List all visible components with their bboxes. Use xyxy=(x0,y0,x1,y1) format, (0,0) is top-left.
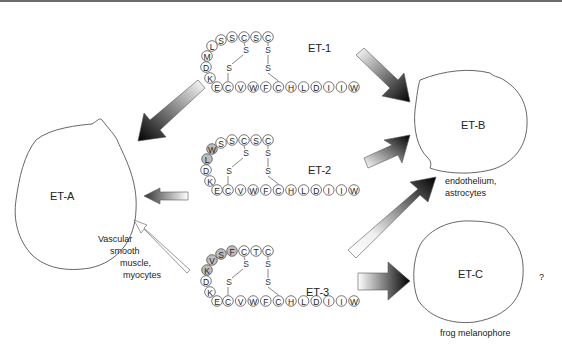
svg-text:S: S xyxy=(265,166,271,176)
arrow-et1-to-etb xyxy=(356,48,410,102)
residue: C xyxy=(263,32,274,43)
residue: W xyxy=(248,296,259,307)
disulfide-bonds: SSSS xyxy=(226,257,278,295)
peptide-et-2: EKDLWSSCSCCVWFCHLDIIWSSSS xyxy=(201,135,360,196)
svg-text:I: I xyxy=(340,83,342,93)
svg-text:W: W xyxy=(249,297,257,307)
residue: C xyxy=(223,296,234,307)
svg-text:C: C xyxy=(225,83,231,93)
residue: H xyxy=(286,185,297,196)
svg-text:C: C xyxy=(225,297,231,307)
svg-text:W: W xyxy=(249,186,257,196)
svg-text:M: M xyxy=(203,52,210,62)
svg-text:S: S xyxy=(218,36,224,46)
svg-text:T: T xyxy=(253,247,258,257)
svg-text:D: D xyxy=(313,297,319,307)
receptor-label-et-b: ET-B xyxy=(461,119,485,131)
residue: H xyxy=(286,296,297,307)
receptor-label-et-c: ET-C xyxy=(458,268,483,280)
svg-text:C: C xyxy=(241,136,247,146)
svg-text:W: W xyxy=(350,186,358,196)
svg-text:V: V xyxy=(238,297,244,307)
svg-text:W: W xyxy=(208,145,216,155)
peptide-label-et-2: ET-2 xyxy=(308,164,331,176)
residue: I xyxy=(336,185,347,196)
residue: E xyxy=(212,296,223,307)
residue: S xyxy=(216,138,227,149)
svg-text:K: K xyxy=(207,288,213,298)
svg-text:K: K xyxy=(204,266,210,276)
peptide-label-et-1: ET-1 xyxy=(308,42,331,54)
svg-text:V: V xyxy=(238,186,244,196)
tissue-label-line: Vascular xyxy=(98,234,132,244)
svg-text:L: L xyxy=(301,297,306,307)
svg-text:H: H xyxy=(288,186,294,196)
residue: S xyxy=(227,32,238,43)
svg-text:S: S xyxy=(243,259,249,269)
residue: K xyxy=(205,73,216,84)
residue: D xyxy=(311,82,322,93)
svg-text:C: C xyxy=(275,83,281,93)
tissue-label-line: muscle, xyxy=(120,258,151,268)
residue: F xyxy=(261,82,272,93)
residue: W xyxy=(349,82,360,93)
disulfide-bonds: SSSS xyxy=(226,146,278,184)
residue: C xyxy=(273,82,284,93)
residue: D xyxy=(201,62,212,73)
residue: S xyxy=(251,135,262,146)
residue: H xyxy=(286,82,297,93)
tissue-label-line: frog melanophore xyxy=(440,328,511,338)
svg-text:I: I xyxy=(328,186,330,196)
svg-text:L: L xyxy=(210,42,215,52)
svg-text:S: S xyxy=(243,45,249,55)
residue: C xyxy=(223,82,234,93)
svg-text:V: V xyxy=(209,256,215,266)
svg-text:S: S xyxy=(229,136,235,146)
svg-text:S: S xyxy=(218,250,224,260)
residue: I xyxy=(324,185,335,196)
arrow-et3-to-etc xyxy=(358,262,410,300)
residue: L xyxy=(202,154,213,165)
residue: I xyxy=(336,296,347,307)
residue: V xyxy=(235,296,246,307)
residue: I xyxy=(324,82,335,93)
svg-text:E: E xyxy=(214,83,220,93)
disulfide-bonds: SSSS xyxy=(226,43,278,81)
svg-text:S: S xyxy=(253,33,259,43)
svg-text:K: K xyxy=(207,177,213,187)
tissue-label-line: smooth xyxy=(110,246,140,256)
residue: S xyxy=(216,35,227,46)
arrow-et1-to-eta xyxy=(138,80,205,141)
svg-text:C: C xyxy=(275,186,281,196)
svg-text:W: W xyxy=(350,297,358,307)
residue: S xyxy=(216,249,227,260)
svg-text:C: C xyxy=(265,33,271,43)
svg-text:D: D xyxy=(313,83,319,93)
residue: F xyxy=(261,185,272,196)
svg-text:C: C xyxy=(265,247,271,257)
residue: V xyxy=(235,82,246,93)
residue: M xyxy=(202,51,213,62)
svg-text:S: S xyxy=(265,45,271,55)
receptor-et-c: ET-C ? frog melanophore xyxy=(414,221,544,338)
residue: F xyxy=(261,296,272,307)
svg-text:S: S xyxy=(229,33,235,43)
residue: E xyxy=(212,185,223,196)
residue: W xyxy=(349,185,360,196)
arrow-et3-to-etb xyxy=(348,177,436,258)
residue: L xyxy=(298,82,309,93)
svg-text:S: S xyxy=(226,277,232,287)
residue: C xyxy=(263,246,274,257)
arrow-et2-to-etb xyxy=(364,135,410,168)
svg-text:C: C xyxy=(275,297,281,307)
endothelin-receptor-diagram: ET-A Vascular smooth muscle, myocytes ET… xyxy=(0,0,562,353)
residue: C xyxy=(239,246,250,257)
svg-text:D: D xyxy=(203,166,209,176)
svg-text:E: E xyxy=(214,297,220,307)
residue: V xyxy=(235,185,246,196)
svg-text:D: D xyxy=(203,277,209,287)
residue: C xyxy=(223,185,234,196)
residue: D xyxy=(311,185,322,196)
svg-text:I: I xyxy=(340,297,342,307)
svg-text:S: S xyxy=(226,63,232,73)
